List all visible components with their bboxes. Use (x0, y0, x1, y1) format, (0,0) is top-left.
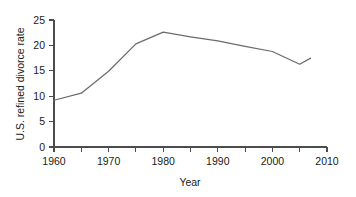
y-tick-label-15: 15 (33, 64, 45, 76)
chart-figure: 0 5 10 15 20 25 1960 1970 1980 1990 (0, 0, 356, 197)
y-tick-label-20: 20 (33, 39, 45, 51)
x-tick-label-1980: 1980 (152, 155, 176, 167)
x-tick-label-1960: 1960 (42, 155, 66, 167)
chart-background (0, 0, 356, 197)
x-axis-title: Year (179, 176, 201, 188)
y-tick-label-0: 0 (39, 141, 45, 153)
line-chart: 0 5 10 15 20 25 1960 1970 1980 1990 (0, 0, 356, 197)
y-tick-label-25: 25 (33, 14, 45, 26)
x-tick-label-1970: 1970 (97, 155, 121, 167)
x-tick-label-2010: 2010 (315, 155, 339, 167)
y-tick-label-10: 10 (33, 90, 45, 102)
x-tick-label-1990: 1990 (206, 155, 230, 167)
y-axis-title: U.S. refined divorce rate (14, 27, 26, 140)
y-tick-label-5: 5 (39, 115, 45, 127)
x-tick-label-2000: 2000 (261, 155, 285, 167)
